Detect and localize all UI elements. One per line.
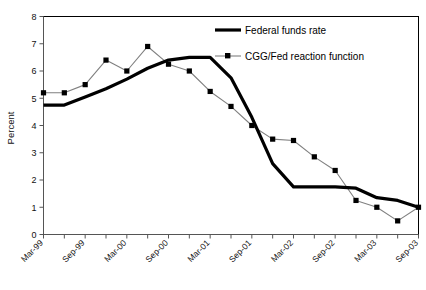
y-axis-tick-labels: 012345678	[31, 12, 36, 240]
legend-marker-cgg-fed-reaction-function	[225, 53, 230, 58]
data-point-marker	[41, 90, 46, 95]
y-tick-label: 1	[31, 203, 36, 213]
data-point-marker	[83, 82, 88, 87]
y-tick-label: 7	[31, 39, 36, 49]
y-tick-label: 0	[31, 230, 36, 240]
y-tick-label: 2	[31, 175, 36, 185]
legend-label-cgg-fed-reaction-function: CGG/Fed reaction function	[245, 51, 364, 62]
data-point-marker	[228, 104, 233, 109]
data-point-marker	[62, 90, 67, 95]
cropped-caption-strip	[0, 284, 426, 290]
y-tick-label: 5	[31, 94, 36, 104]
legend-label-federal-funds-rate: Federal funds rate	[245, 25, 327, 36]
data-point-marker	[312, 154, 317, 159]
data-point-marker	[145, 44, 150, 49]
data-point-marker	[270, 137, 275, 142]
data-point-marker	[333, 168, 338, 173]
data-point-marker	[103, 58, 108, 63]
chart-container: 012345678 Mar-99Sep-99Mar-00Sep-00Mar-01…	[0, 0, 426, 290]
y-tick-label: 8	[31, 12, 36, 22]
data-point-marker	[353, 198, 358, 203]
y-tick-label: 3	[31, 148, 36, 158]
data-point-marker	[291, 138, 296, 143]
data-point-marker	[124, 68, 129, 73]
data-point-marker	[395, 218, 400, 223]
y-tick-label: 4	[31, 121, 36, 131]
data-point-marker	[374, 205, 379, 210]
data-point-marker	[187, 68, 192, 73]
line-chart: 012345678 Mar-99Sep-99Mar-00Sep-00Mar-01…	[0, 0, 426, 290]
data-point-marker	[208, 89, 213, 94]
y-tick-label: 6	[31, 66, 36, 76]
y-axis-title: Percent	[5, 111, 16, 144]
